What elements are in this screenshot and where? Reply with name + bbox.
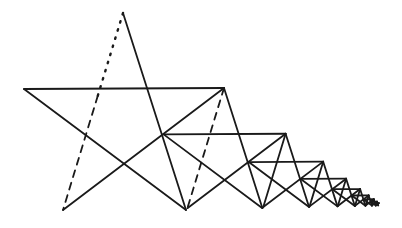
star-1-edge: [24, 89, 186, 210]
star-4-edge: [310, 179, 347, 207]
star-3-edge: [249, 162, 309, 207]
star-3-edge: [263, 134, 285, 207]
star-2-edge: [164, 134, 286, 135]
star-1-edge: [63, 88, 224, 210]
star-1-edge: [24, 88, 224, 89]
star-4-edge: [323, 162, 337, 207]
diagram-svg: [0, 0, 402, 228]
star-1-edge-dotted: [98, 13, 123, 96]
star-4-edge: [301, 179, 338, 206]
star-2-edge-dashed: [187, 88, 224, 208]
star-2-edge: [224, 88, 262, 208]
star-1-edge-dashed: [63, 96, 98, 210]
star-1-edge: [123, 13, 186, 210]
star-2-edge: [187, 134, 285, 208]
star-3-edge: [263, 162, 323, 207]
star-chain-diagram: [0, 0, 402, 228]
star-4-edge: [310, 162, 324, 207]
star-2-edge: [164, 134, 263, 208]
star-3-edge: [286, 134, 309, 207]
